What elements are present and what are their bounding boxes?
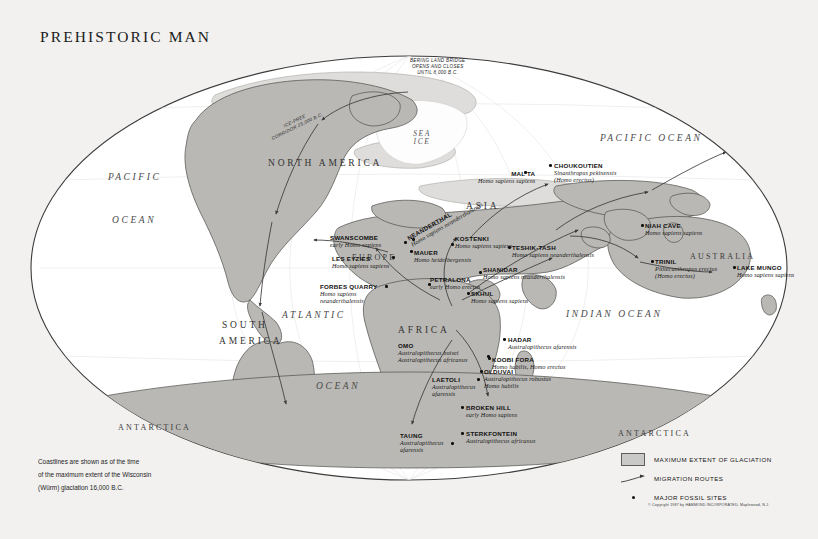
fossil-site-species-omo-1: Australopithecus africanus <box>398 356 467 363</box>
map-legend: MAXIMUM EXTENT OF GLACIATION MIGRATION R… <box>612 450 812 507</box>
continent-label-north-america: NORTH AMERICA <box>268 158 382 168</box>
fossil-site-species-kostenki-0: Homo sapiens sapiens <box>455 242 512 249</box>
fossil-site-species-skhul-0: Homo sapiens sapiens <box>471 297 528 304</box>
fossil-site-label-taung[interactable]: TAUNGAustralopithecusafarensis <box>400 432 444 453</box>
fossil-site-name-mauer: MAUER <box>414 249 471 256</box>
ocean-label-atlantic: ATLANTIC <box>282 310 346 320</box>
fossil-site-name-broken-hill: BROKEN HILL <box>466 404 517 411</box>
fossil-site-species-laetoli-1: afarensis <box>432 390 476 397</box>
fossil-site-name-malta: MAL'TA <box>478 170 535 177</box>
fossil-site-dot-olduvai[interactable] <box>480 370 483 373</box>
continent-label-africa: AFRICA <box>398 325 450 335</box>
fossil-site-name-choukoutien: CHOUKOUTIEN <box>554 162 616 169</box>
continent-label-antarctica: ANTARCTICA <box>118 424 191 433</box>
fossil-site-dot-lake-mungo[interactable] <box>733 266 736 269</box>
fossil-site-name-niah-cave: NIAH CAVE <box>645 222 702 229</box>
fossil-site-label-skhul[interactable]: SKHULHomo sapiens sapiens <box>471 290 528 304</box>
annotation-bering-land-bridge: BERING LAND BRIDGEOPENS AND CLOSESUNTIL … <box>410 58 465 77</box>
fossil-site-species-omo-0: Australopithecus boisei <box>398 349 467 356</box>
fossil-site-species-petralona-0: early Homo erectus <box>430 283 480 290</box>
fossil-site-species-trinil-0: Pithecanthropus erectus <box>655 265 717 272</box>
continent-label-america: AMERICA <box>219 336 282 346</box>
fossil-site-label-swanscombe[interactable]: SWANSCOMBEearly Homo sapiens <box>330 234 381 248</box>
fossil-site-species-taung-1: afarensis <box>400 446 444 453</box>
fossil-site-label-niah-cave[interactable]: NIAH CAVEHomo sapiens sapiens <box>645 222 702 236</box>
fossil-site-label-laetoli[interactable]: LAETOLIAustralopithecusafarensis <box>432 376 476 397</box>
fossil-site-label-teshik-tash[interactable]: TESHIK-TASHHomo sapiens neanderthalensis <box>512 244 594 258</box>
fossil-site-name-skhul: SKHUL <box>471 290 528 297</box>
glaciation-swatch-icon <box>612 453 654 466</box>
fossil-site-dot-broken-hill[interactable] <box>461 406 464 409</box>
legend-item-migration: MIGRATION ROUTES <box>612 469 812 488</box>
fossil-site-dot-trinil[interactable] <box>651 260 654 263</box>
fossil-site-name-kostenki: KOSTENKI <box>455 235 512 242</box>
coastline-note-line-2: of the maximum extent of the Wisconsin <box>38 468 151 481</box>
fossil-site-label-petralona[interactable]: PETRALONAearly Homo erectus <box>430 276 480 290</box>
fossil-site-label-les-eyzies[interactable]: LES EYZIESHomo sapiens sapiens <box>332 255 389 269</box>
fossil-site-name-swanscombe: SWANSCOMBE <box>330 234 381 241</box>
fossil-site-species-olduvai-0: Australopithecus robustus <box>484 375 551 382</box>
fossil-site-label-shanidar[interactable]: SHANIDARHomo sapiens neanderthalensis <box>483 266 565 280</box>
fossil-site-name-koobi-fora: KOOBI FORA <box>492 356 566 363</box>
fossil-site-name-teshik-tash: TESHIK-TASH <box>512 244 594 251</box>
fossil-site-dot-shanidar[interactable] <box>479 271 482 274</box>
fossil-site-dot-niah-cave[interactable] <box>641 224 644 227</box>
legend-item-glaciation: MAXIMUM EXTENT OF GLACIATION <box>612 450 812 469</box>
fossil-site-species-sterkfontein-0: Australopithecus africanus <box>466 437 535 444</box>
continent-label-antarctica: ANTARCTICA <box>618 430 691 439</box>
fossil-site-name-forbes-quarry: FORBES QUARRY <box>320 283 377 290</box>
legend-label-migration: MIGRATION ROUTES <box>654 475 723 482</box>
fossil-dot-icon <box>612 496 654 499</box>
fossil-site-dot-swanscombe[interactable] <box>404 241 407 244</box>
fossil-site-species-hadar-0: Australopithecus afarensis <box>508 343 577 350</box>
fossil-site-dot-teshik-tash[interactable] <box>508 246 511 249</box>
fossil-site-dot-hadar[interactable] <box>503 338 506 341</box>
fossil-site-dot-forbes-quarry[interactable] <box>385 285 388 288</box>
ocean-label-pacific-ocean: PACIFIC OCEAN <box>600 133 703 143</box>
fossil-site-dot-les-eyzies[interactable] <box>392 256 395 259</box>
continent-label-south: SOUTH <box>222 320 268 330</box>
fossil-site-dot-sterkfontein[interactable] <box>461 432 464 435</box>
fossil-site-label-mauer[interactable]: MAUERHomo heidelbergensis <box>414 249 471 263</box>
ocean-label-ocean: OCEAN <box>316 381 360 391</box>
fossil-site-label-trinil[interactable]: TRINILPithecanthropus erectus(Homo erect… <box>655 258 717 279</box>
fossil-site-label-omo[interactable]: OMOAustralopithecus boiseiAustralopithec… <box>398 342 467 363</box>
fossil-site-species-mauer-0: Homo heidelbergensis <box>414 256 471 263</box>
fossil-site-species-olduvai-1: Homo habilis <box>484 382 551 389</box>
fossil-site-dot-koobi-fora[interactable] <box>488 357 491 360</box>
fossil-site-name-taung: TAUNG <box>400 432 444 439</box>
fossil-site-label-malta[interactable]: MAL'TAHomo sapiens sapiens <box>478 170 535 184</box>
ocean-label-indian-ocean: INDIAN OCEAN <box>566 309 662 319</box>
fossil-site-name-petralona: PETRALONA <box>430 276 480 283</box>
fossil-site-dot-taung[interactable] <box>451 442 454 445</box>
fossil-site-label-choukoutien[interactable]: CHOUKOUTIENSinanthropus pekinensis(Homo … <box>554 162 616 183</box>
fossil-site-name-sterkfontein: STERKFONTEIN <box>466 430 535 437</box>
fossil-site-species-choukoutien-1: (Homo erectus) <box>554 176 616 183</box>
fossil-site-label-kostenki[interactable]: KOSTENKIHomo sapiens sapiens <box>455 235 512 249</box>
fossil-site-label-broken-hill[interactable]: BROKEN HILLearly Homo sapiens <box>466 404 517 418</box>
fossil-site-name-olduvai: OLDUVAI <box>484 368 551 375</box>
fossil-site-species-shanidar-0: Homo sapiens neanderthalensis <box>483 273 565 280</box>
coastline-note-line-1: Coastlines are shown as of the time <box>38 455 151 468</box>
fossil-site-name-les-eyzies: LES EYZIES <box>332 255 389 262</box>
fossil-site-dot-laetoli[interactable] <box>477 378 480 381</box>
fossil-site-dot-choukoutien[interactable] <box>549 164 552 167</box>
fossil-site-dot-kostenki[interactable] <box>451 243 454 246</box>
fossil-site-label-hadar[interactable]: HADARAustralopithecus afarensis <box>508 336 577 350</box>
fossil-site-label-lake-mungo[interactable]: LAKE MUNGOHomo sapiens sapiens <box>737 264 794 278</box>
fossil-site-name-lake-mungo: LAKE MUNGO <box>737 264 794 271</box>
fossil-site-label-forbes-quarry[interactable]: FORBES QUARRYHomo sapiensneanderthalensi… <box>320 283 377 304</box>
fossil-site-name-hadar: HADAR <box>508 336 577 343</box>
fossil-site-species-les-eyzies-0: Homo sapiens sapiens <box>332 262 389 269</box>
fossil-site-species-trinil-1: (Homo erectus) <box>655 272 717 279</box>
fossil-site-dot-mauer[interactable] <box>410 250 413 253</box>
coastline-note: Coastlines are shown as of the time of t… <box>38 455 151 494</box>
ocean-label-ocean: OCEAN <box>112 215 156 225</box>
ocean-label-pacific: PACIFIC <box>108 172 161 182</box>
fossil-site-name-laetoli: LAETOLI <box>432 376 476 383</box>
fossil-site-label-sterkfontein[interactable]: STERKFONTEINAustralopithecus africanus <box>466 430 535 444</box>
fossil-site-species-lake-mungo-0: Homo sapiens sapiens <box>737 271 794 278</box>
fossil-site-label-olduvai[interactable]: OLDUVAIAustralopithecus robustusHomo hab… <box>484 368 551 389</box>
fossil-site-dot-skhul[interactable] <box>467 292 470 295</box>
legend-label-fossil-sites: MAJOR FOSSIL SITES <box>654 494 727 501</box>
